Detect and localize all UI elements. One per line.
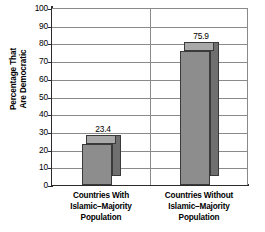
y-axis-tickmark	[48, 186, 52, 187]
x-axis-category-label-1: Countries WithoutIslamic–MajorityPopulat…	[150, 190, 248, 223]
y-axis-tickmark	[48, 80, 52, 81]
y-axis-tick-labels: 1009080706050403020100	[20, 0, 48, 232]
y-axis-tickmark	[48, 44, 52, 45]
bar-column	[82, 135, 121, 185]
bar-column	[180, 42, 219, 185]
y-axis-tickmark	[48, 133, 52, 134]
y-axis-tick-label: 50	[20, 92, 48, 100]
y-axis-tickmark	[48, 168, 52, 169]
gridline	[52, 27, 247, 28]
x-axis-category-label-line: Population	[150, 212, 248, 223]
y-axis-tickmark	[48, 98, 52, 99]
x-axis-category-label-line: Population	[52, 212, 150, 223]
y-axis-tick-label: 40	[20, 110, 48, 118]
y-axis-tick-label: 70	[20, 57, 48, 65]
y-axis-tickmark	[48, 115, 52, 116]
x-axis-category-label-0: Countries WithIslamic–MajorityPopulation	[52, 190, 150, 223]
bar-value-label: 75.9	[192, 32, 210, 40]
x-axis-category-label-line: Islamic–Majority	[150, 201, 248, 212]
x-axis-category-label-line: Islamic–Majority	[52, 201, 150, 212]
y-axis-tick-label: 10	[20, 163, 48, 171]
y-axis-tickmark	[48, 62, 52, 63]
y-axis-tick-label: 80	[20, 39, 48, 47]
y-axis-tick-label: 60	[20, 75, 48, 83]
y-axis-tick-label: 90	[20, 21, 48, 29]
bar-value-label: 23.4	[94, 125, 112, 133]
y-axis-tick-label: 20	[20, 145, 48, 153]
plot-area: 23.475.9	[52, 8, 248, 185]
bar-front-face	[180, 51, 210, 185]
bar-chart: Percentage That Are Democratic 100908070…	[0, 0, 265, 232]
x-axis-category-label-line: Countries Without	[150, 190, 248, 201]
y-axis-tick-label: 0	[20, 181, 48, 189]
bar-top-face	[184, 42, 214, 51]
bar-front-face	[82, 144, 112, 185]
y-axis-tick-label: 100	[20, 4, 48, 12]
bar-top-face	[86, 135, 116, 144]
bar-side-face	[210, 42, 219, 176]
y-axis-tickmark	[48, 27, 52, 28]
y-axis-tickmark	[48, 151, 52, 152]
y-axis-tick-label: 30	[20, 128, 48, 136]
y-axis-title-line-1: Percentage That	[9, 48, 19, 110]
x-axis-category-label-line: Countries With	[52, 190, 150, 201]
y-axis-tickmark	[48, 9, 52, 10]
